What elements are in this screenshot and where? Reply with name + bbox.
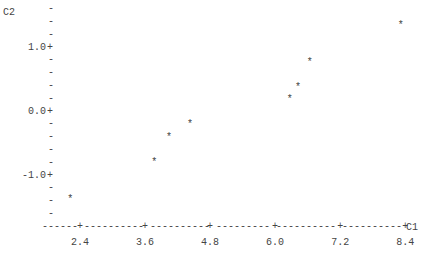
x-tick-label: 4.8 (201, 237, 219, 248)
y-tick-label: 1.0 (28, 42, 46, 53)
data-points: ******** (67, 20, 404, 205)
data-point: * (398, 20, 404, 31)
y-tick-minor: - (48, 157, 54, 168)
scatter-plot: C2 C1 ---+-1.0----+0.0----+1.0--- ------… (0, 0, 425, 255)
x-tick-major: + (402, 221, 408, 232)
y-tick-major: + (47, 106, 53, 117)
data-point: * (166, 132, 172, 143)
data-point: * (187, 119, 193, 130)
y-tick-major: + (47, 42, 53, 53)
data-point: * (287, 94, 293, 105)
y-tick-minor: - (48, 118, 54, 129)
y-tick-major: + (47, 170, 53, 181)
y-tick-minor: - (48, 80, 54, 91)
data-point: * (295, 82, 301, 93)
x-axis: ----------------------------------------… (42, 221, 414, 248)
x-tick-major: + (272, 221, 278, 232)
y-tick-minor: - (48, 195, 54, 206)
x-tick-major: + (77, 221, 83, 232)
data-point: * (67, 194, 73, 205)
y-tick-minor: - (48, 29, 54, 40)
y-tick-label: -1.0 (22, 170, 46, 181)
x-tick-major: + (207, 221, 213, 232)
y-tick-label: 0.0 (28, 106, 46, 117)
x-tick-label: 3.6 (136, 237, 154, 248)
data-point: * (307, 57, 313, 68)
y-axis: ---+-1.0----+0.0----+1.0--- (22, 3, 54, 219)
y-tick-minor: - (48, 131, 54, 142)
y-tick-minor: - (48, 208, 54, 219)
y-tick-minor: - (48, 3, 54, 14)
x-tick-label: 8.4 (396, 237, 414, 248)
y-tick-minor: - (48, 54, 54, 65)
data-point: * (151, 157, 157, 168)
x-tick-major: + (142, 221, 148, 232)
y-tick-minor: - (48, 16, 54, 27)
x-axis-dash: - (264, 221, 270, 232)
y-tick-minor: - (48, 144, 54, 155)
y-tick-minor: - (48, 67, 54, 78)
x-tick-major: + (337, 221, 343, 232)
x-tick-label: 7.2 (331, 237, 349, 248)
x-axis-dash: - (330, 221, 336, 232)
y-tick-minor: - (48, 182, 54, 193)
x-axis-dash: - (396, 221, 402, 232)
y-tick-minor: - (48, 93, 54, 104)
y-axis-label: C2 (3, 7, 15, 18)
x-tick-label: 6.0 (266, 237, 284, 248)
x-tick-label: 2.4 (71, 237, 89, 248)
